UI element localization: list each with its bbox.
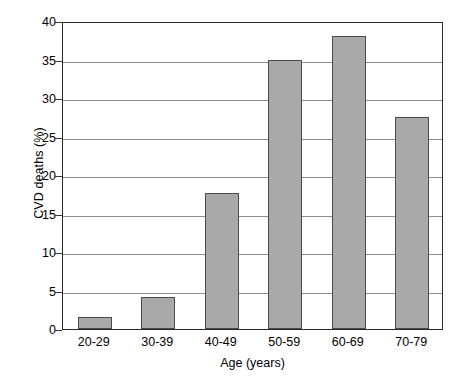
bar	[395, 117, 429, 329]
bar	[141, 297, 175, 329]
y-tick-mark	[55, 138, 62, 139]
y-tick-mark	[55, 99, 62, 100]
y-tick-mark	[55, 215, 62, 216]
y-tick-label: 0	[30, 323, 56, 337]
y-tick-mark	[55, 292, 62, 293]
y-tick-label: 25	[30, 131, 56, 145]
y-tick-mark	[55, 330, 62, 331]
x-tick-label: 20-29	[62, 334, 126, 350]
x-axis-title: Age (years)	[62, 356, 443, 370]
y-axis-tick-labels: 0510152025303540	[30, 22, 56, 330]
x-axis-tick-labels: 20-2930-3940-4950-5960-6970-79	[62, 334, 443, 352]
bar	[268, 60, 302, 330]
y-tick-label: 15	[30, 208, 56, 222]
x-tick-label: 60-69	[316, 334, 380, 350]
bar	[205, 193, 239, 329]
x-tick-label: 30-39	[126, 334, 190, 350]
y-tick-label: 10	[30, 246, 56, 260]
y-tick-label: 35	[30, 54, 56, 68]
cvd-deaths-by-age-bar-chart: CVD deaths (%) 0510152025303540 20-2930-…	[0, 0, 465, 382]
y-tick-mark	[55, 61, 62, 62]
y-tick-label: 20	[30, 169, 56, 183]
plot-area	[62, 22, 443, 330]
y-tick-label: 40	[30, 15, 56, 29]
y-tick-label: 5	[30, 285, 56, 299]
bar	[78, 317, 112, 329]
x-tick-label: 50-59	[253, 334, 317, 350]
x-tick-label: 40-49	[189, 334, 253, 350]
bar-series	[63, 23, 442, 329]
y-tick-mark	[55, 176, 62, 177]
y-tick-mark	[55, 22, 62, 23]
x-tick-label: 70-79	[380, 334, 444, 350]
y-tick-label: 30	[30, 92, 56, 106]
bar	[332, 36, 366, 329]
y-tick-mark	[55, 253, 62, 254]
